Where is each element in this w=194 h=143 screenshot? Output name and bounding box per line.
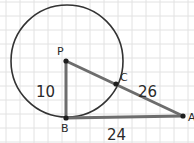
segment-ba (66, 116, 183, 118)
label-b: B (61, 122, 69, 135)
label-c: C (120, 71, 128, 84)
graph-paper-grid (0, 0, 194, 143)
segment-pa (66, 61, 183, 116)
label-p: P (57, 45, 64, 58)
label-a: A (188, 111, 194, 124)
measure-pb: 10 (36, 83, 55, 101)
geometry-diagram: P B A C 10 26 24 (0, 0, 194, 143)
measure-ca: 26 (138, 83, 157, 101)
measure-ba: 24 (107, 126, 126, 143)
point-b-dot (63, 115, 68, 120)
point-c-dot (113, 81, 118, 86)
triangle-segments (66, 61, 183, 118)
measurements: 10 26 24 (36, 83, 157, 143)
point-a-dot (180, 113, 185, 118)
point-p-dot (63, 58, 68, 63)
